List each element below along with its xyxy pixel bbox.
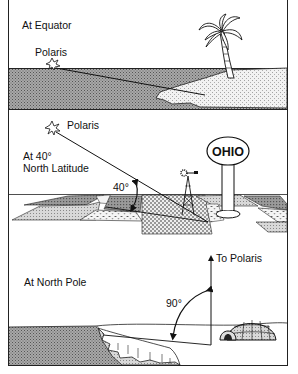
panel-equator: At Equator Polaris: [9, 14, 287, 110]
star-label: Polaris: [67, 119, 99, 131]
panel-heading: At Equator: [22, 19, 72, 31]
panel-heading: At North Pole: [24, 276, 87, 288]
angle-label: 40°: [113, 181, 129, 193]
panel-north-pole: To Polaris At North Pole 90°: [9, 252, 287, 365]
polaris-altitude-diagram: At Equator Polaris: [0, 0, 298, 374]
field: [256, 222, 287, 232]
panel-40-north: OHIO Polaris At 40° North Latitude 40°: [9, 119, 287, 234]
panel-heading-line2: North Latitude: [23, 162, 89, 174]
field: [24, 195, 104, 205]
angle-label: 90°: [166, 297, 182, 309]
field: [142, 195, 212, 234]
field: [258, 208, 287, 222]
star-label: Polaris: [35, 46, 67, 58]
ohio-sign-text: OHIO: [212, 145, 244, 159]
panel-heading-line1: At 40°: [23, 150, 52, 162]
star-label: To Polaris: [216, 252, 262, 264]
